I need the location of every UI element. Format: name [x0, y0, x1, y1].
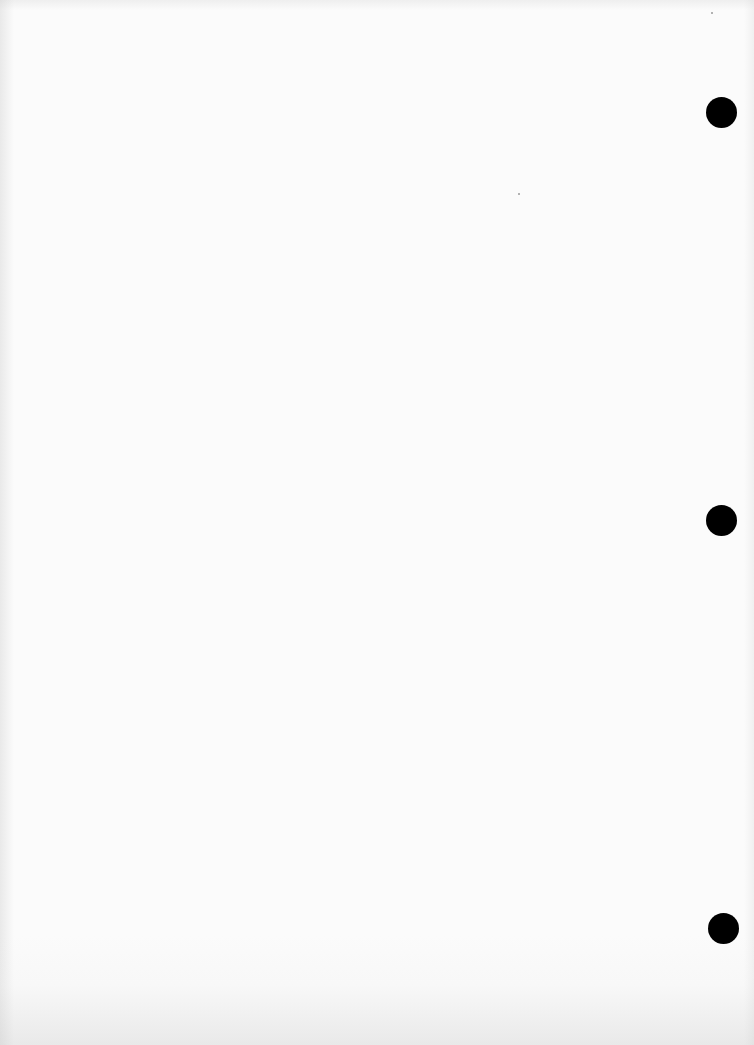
dust-speck — [711, 12, 713, 14]
punch-hole-top — [706, 97, 737, 128]
punch-hole-middle — [706, 505, 737, 536]
punch-hole-bottom — [708, 913, 739, 944]
dust-speck — [518, 193, 520, 195]
scanned-page — [0, 0, 754, 1045]
